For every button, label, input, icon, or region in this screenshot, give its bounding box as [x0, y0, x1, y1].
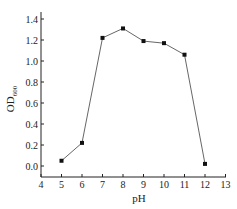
- plot-area: [60, 26, 208, 165]
- x-tick-label: 10: [159, 179, 169, 190]
- data-point-marker: [60, 159, 64, 163]
- y-tick-label: 0.6: [26, 98, 39, 109]
- axes: 0.00.20.40.60.81.01.21.445678910111213: [26, 12, 231, 190]
- x-tick-label: 11: [180, 179, 190, 190]
- x-tick-label: 9: [141, 179, 146, 190]
- x-tick-label: 6: [80, 179, 85, 190]
- y-tick-label: 0.4: [26, 119, 39, 130]
- data-point-marker: [142, 39, 146, 43]
- data-point-marker: [101, 36, 105, 40]
- y-tick-label: 1.2: [26, 35, 39, 46]
- x-axis-label: pH: [132, 192, 146, 204]
- data-point-marker: [80, 141, 84, 145]
- y-tick-label: 1.0: [26, 56, 39, 67]
- x-tick-label: 7: [100, 179, 105, 190]
- chart-container: 0.00.20.40.60.81.01.21.445678910111213 p…: [0, 0, 237, 209]
- y-tick-label: 0.2: [26, 140, 39, 151]
- y-tick-label: 0.0: [26, 161, 39, 172]
- y-axis-label: OD600: [4, 85, 19, 112]
- data-point-marker: [203, 162, 207, 166]
- data-point-marker: [121, 26, 125, 30]
- data-point-marker: [183, 53, 187, 57]
- data-point-marker: [162, 41, 166, 45]
- x-tick-label: 8: [121, 179, 126, 190]
- y-tick-label: 0.8: [26, 77, 39, 88]
- y-tick-label: 1.4: [26, 14, 39, 25]
- x-tick-label: 12: [200, 179, 210, 190]
- x-tick-label: 4: [39, 179, 44, 190]
- x-tick-label: 13: [221, 179, 231, 190]
- x-tick-label: 5: [59, 179, 64, 190]
